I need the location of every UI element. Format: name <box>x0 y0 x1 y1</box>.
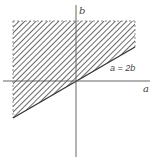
diagram-canvas: b a a = 2b <box>0 0 152 163</box>
x-axis-label: a <box>143 83 149 94</box>
y-axis-label: b <box>79 5 85 16</box>
boundary-line-label: a = 2b <box>110 63 135 73</box>
